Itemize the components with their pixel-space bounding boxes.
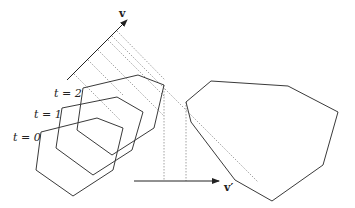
projection-line	[98, 50, 164, 116]
projection-lines	[74, 31, 258, 182]
diagram-svg: v v′ t = 0 t = 1 t = 2	[0, 0, 355, 208]
hexagon-t0	[36, 118, 123, 196]
diagram-canvas: v v′ t = 0 t = 1 t = 2	[0, 0, 355, 208]
label-t0: t = 0	[13, 131, 41, 144]
label-v: v	[118, 7, 126, 20]
projection-line-long	[112, 36, 258, 182]
label-t1: t = 1	[34, 108, 62, 121]
projection-line	[88, 60, 124, 96]
label-v-prime: v′	[223, 181, 233, 194]
hexagon-t2	[77, 75, 164, 155]
obstacle-polygon	[186, 81, 338, 201]
axis-v	[67, 20, 127, 80]
hexagon-t1	[56, 97, 143, 175]
label-t2: t = 2	[54, 87, 82, 100]
